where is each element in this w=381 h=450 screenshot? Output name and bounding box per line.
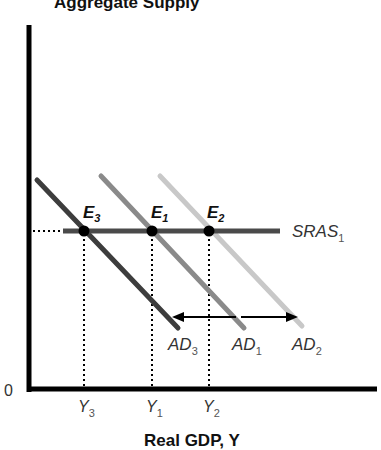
e2-point [204, 226, 215, 237]
origin-label: 0 [4, 382, 13, 399]
x-axis-label: Real GDP, Y [144, 431, 240, 450]
ad2-curve [160, 176, 302, 326]
e2-label: E2 [207, 203, 224, 224]
ad3-label: AD3 [167, 335, 198, 357]
e1-point [147, 226, 158, 237]
y2-tick-label: Y2 [203, 398, 220, 419]
e3-point [79, 226, 90, 237]
y3-tick-label: Y3 [78, 398, 95, 419]
e3-label: E3 [83, 203, 100, 224]
diagram-title: Aggregate Supply [54, 0, 200, 12]
ad2-label: AD2 [291, 335, 322, 357]
ad1-label: AD1 [231, 335, 262, 357]
sras-label: SRAS1 [292, 222, 344, 244]
ad1-curve [101, 176, 244, 328]
y1-tick-label: Y1 [146, 398, 163, 419]
aggregate-supply-diagram: Aggregate Supply E3 E1 E2 SRAS1 AD3 AD1 … [0, 0, 381, 450]
e1-label: E1 [151, 203, 168, 224]
